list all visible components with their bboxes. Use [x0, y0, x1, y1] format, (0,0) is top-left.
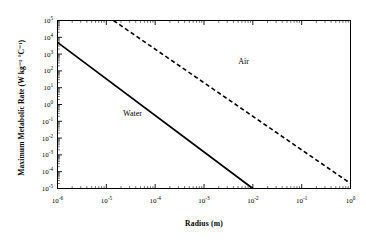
y-tick-label: 10-3: [29, 150, 53, 159]
y-tick-label: 100: [29, 100, 53, 109]
y-tick-label: 105: [29, 16, 53, 25]
series-annotation-water: Water: [123, 110, 142, 118]
y-tick-label: 10-4: [29, 167, 53, 176]
metabolic-rate-chart: Maximum Metabolic Rate (W kg⁻¹ °C⁻¹) Rad…: [0, 0, 366, 246]
x-tick-label: 10-3: [191, 196, 217, 205]
x-tick-label: 10-1: [289, 196, 315, 205]
x-tick-label: 10-2: [240, 196, 266, 205]
plot-frame: [58, 21, 351, 189]
x-tick-label: 10-4: [142, 196, 168, 205]
y-axis-title: Maximum Metabolic Rate (W kg⁻¹ °C⁻¹): [18, 18, 26, 198]
x-axis-title: Radius (m): [57, 219, 351, 228]
y-tick-label: 103: [29, 50, 53, 59]
series-annotation-air: Air: [238, 58, 249, 66]
y-tick-label: 104: [29, 33, 53, 42]
y-tick-label: 101: [29, 83, 53, 92]
axes-frame: [58, 21, 351, 189]
x-tick-label: 10-5: [93, 196, 119, 205]
y-tick-label: 10-5: [29, 184, 53, 193]
plot-area: [0, 0, 366, 246]
x-tick-label: 10-6: [45, 196, 71, 205]
y-tick-label: 102: [29, 66, 53, 75]
y-tick-label: 10-2: [29, 134, 53, 143]
y-tick-label: 10-1: [29, 117, 53, 126]
x-tick-label: 100: [338, 196, 364, 205]
